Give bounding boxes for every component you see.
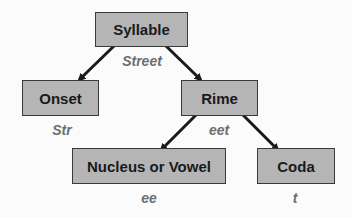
arrow-rime-nucleus <box>161 115 196 150</box>
example-coda: t <box>293 190 298 206</box>
arrow-syllable-rime <box>166 46 201 80</box>
node-nucleus: Nucleus or Vowel <box>72 148 226 184</box>
node-syllable-label: Syllable <box>113 21 170 38</box>
node-rime: Rime <box>181 80 258 116</box>
node-coda-label: Coda <box>277 158 315 175</box>
arrow-rime-coda <box>243 115 278 150</box>
arrow-syllable-onset <box>79 46 114 80</box>
node-onset: Onset <box>22 80 99 116</box>
example-rime: eet <box>209 122 229 138</box>
example-nucleus: ee <box>141 190 157 206</box>
node-coda: Coda <box>257 148 335 184</box>
node-onset-label: Onset <box>39 90 82 107</box>
node-rime-label: Rime <box>201 90 238 107</box>
node-syllable: Syllable <box>95 12 188 47</box>
example-syllable: Street <box>122 53 162 69</box>
node-nucleus-label: Nucleus or Vowel <box>87 158 211 175</box>
example-onset: Str <box>52 122 71 138</box>
